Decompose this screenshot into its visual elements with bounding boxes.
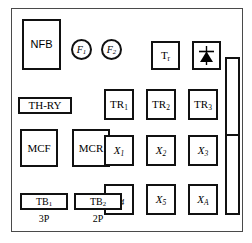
- diode-symbol-icon: [196, 45, 217, 66]
- component-tr-1-label: TR1: [110, 99, 128, 110]
- component-fuse-1[interactable]: F1: [71, 39, 92, 60]
- component-x-3-label: X3: [198, 145, 208, 156]
- component-mcf[interactable]: MCF: [20, 129, 58, 167]
- component-mcr-label: MCR: [79, 143, 103, 154]
- component-rectifier[interactable]: [192, 41, 221, 70]
- component-tr-3-label: TR3: [194, 99, 212, 110]
- component-transformer[interactable]: Tr: [151, 41, 180, 70]
- component-tb-2-label: TB2: [90, 197, 106, 207]
- component-x-a-label: XA: [197, 194, 208, 205]
- component-terminal-rail[interactable]: [225, 57, 240, 215]
- component-tb-1-caption: 3P: [20, 214, 68, 224]
- component-x-1[interactable]: X1: [104, 135, 134, 166]
- component-x-5-label: X5: [156, 194, 166, 205]
- component-x-1-label: X1: [114, 145, 124, 156]
- component-x-2[interactable]: X2: [146, 135, 176, 166]
- component-tb-2[interactable]: TB2: [74, 193, 122, 210]
- component-fuse-2[interactable]: F2: [101, 39, 122, 60]
- component-x-3[interactable]: X3: [188, 135, 218, 166]
- component-x-2-label: X2: [156, 145, 166, 156]
- component-th-ry[interactable]: TH-RY: [18, 97, 72, 114]
- component-mcf-label: MCF: [27, 143, 50, 154]
- terminal-rail-divider: [227, 134, 238, 136]
- component-fuse-2-label: F2: [107, 45, 117, 55]
- component-x-5[interactable]: X5: [146, 184, 176, 215]
- component-tb-2-caption: 2P: [74, 214, 122, 224]
- panel-layout-diagram: NFB F1 F2 Tr TH-RY TR1: [0, 0, 252, 243]
- component-tr-3[interactable]: TR3: [188, 89, 218, 120]
- component-nfb-label: NFB: [31, 39, 53, 50]
- component-tr-2[interactable]: TR2: [146, 89, 176, 120]
- component-nfb[interactable]: NFB: [22, 19, 61, 70]
- component-tr-1[interactable]: TR1: [104, 89, 134, 120]
- component-tb-1[interactable]: TB1: [20, 193, 68, 210]
- component-fuse-1-label: F1: [77, 45, 87, 55]
- component-tb-1-label: TB1: [36, 197, 52, 207]
- component-tr-2-label: TR2: [152, 99, 170, 110]
- component-th-ry-label: TH-RY: [29, 100, 62, 111]
- panel-enclosure: NFB F1 F2 Tr TH-RY TR1: [11, 8, 243, 232]
- component-transformer-label: Tr: [161, 50, 170, 61]
- component-x-a[interactable]: XA: [188, 184, 218, 215]
